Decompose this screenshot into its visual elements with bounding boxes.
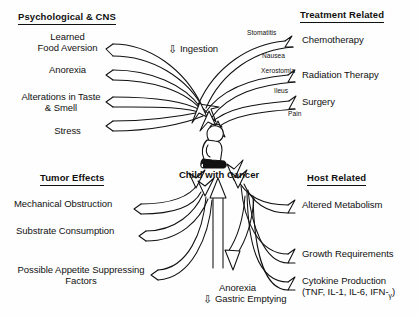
- item-altered-metabolism: Altered Metabolism: [302, 200, 382, 211]
- header-treatment-related: Treatment Related: [300, 10, 384, 23]
- item-line: & Smell: [45, 102, 77, 113]
- item-line: (TNF, IL-1, IL-6, IFN-γ): [302, 286, 395, 297]
- arrow-down-icon: ⇩: [168, 44, 177, 55]
- item-line: Learned: [50, 31, 85, 42]
- item-learned-food-aversion: Learned Food Aversion: [20, 32, 115, 53]
- center-label: Child with Cancer: [163, 170, 275, 181]
- arrow-down-icon: ⇩: [203, 294, 212, 305]
- item-line: Factors: [65, 275, 96, 286]
- header-psychological-cns: Psychological & CNS: [18, 12, 116, 25]
- item-line: Cytokine Production: [302, 275, 386, 286]
- item-line: Food Aversion: [38, 42, 98, 53]
- item-line: Possible Appetite Suppressing: [18, 264, 145, 275]
- diagram-canvas: Psychological & CNS Learned Food Aversio…: [0, 0, 419, 316]
- pathway-ingestion-label: Ingestion: [180, 44, 218, 55]
- item-cytokine-production: Cytokine Production (TNF, IL-1, IL-6, IF…: [302, 276, 395, 299]
- item-anorexia-psych: Anorexia: [20, 65, 115, 76]
- annotation-ileus: Ileus: [274, 87, 288, 94]
- pathway-anorexia-label: Anorexia: [219, 283, 256, 294]
- pathway-gastric-emptying: ⇩ Gastric Emptying: [203, 294, 287, 305]
- item-chemotherapy: Chemotherapy: [302, 35, 364, 46]
- item-surgery: Surgery: [302, 97, 335, 108]
- annotation-xerostomia: Xerostomia: [261, 67, 295, 74]
- annotation-nausea: Nausea: [262, 52, 285, 59]
- item-line: Alterations in Taste: [21, 91, 100, 102]
- item-growth-requirements: Growth Requirements: [302, 249, 393, 260]
- annotation-pain: Pain: [288, 110, 301, 117]
- annotation-stomatitis: Stomatitis: [247, 29, 276, 36]
- item-alterations-taste-smell: Alterations in Taste & Smell: [6, 92, 116, 113]
- item-radiation-therapy: Radiation Therapy: [302, 70, 379, 81]
- item-appetite-suppressing-factors: Possible Appetite Suppressing Factors: [6, 265, 156, 286]
- item-stress: Stress: [20, 126, 115, 137]
- pathway-ingestion: ⇩ Ingestion: [168, 44, 218, 55]
- item-substrate-consumption: Substrate Consumption: [16, 226, 114, 237]
- header-tumor-effects: Tumor Effects: [40, 173, 104, 186]
- header-host-related: Host Related: [307, 173, 366, 186]
- item-mechanical-obstruction: Mechanical Obstruction: [14, 199, 112, 210]
- pathway-gastric-emptying-label: Gastric Emptying: [215, 294, 287, 305]
